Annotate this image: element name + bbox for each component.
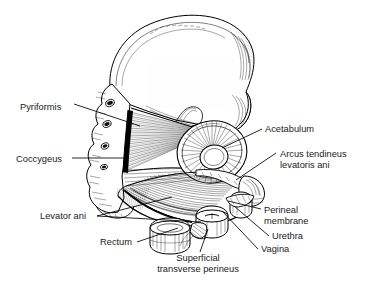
label-levator-ani: Levator ani bbox=[40, 211, 86, 221]
label-acetabulum: Acetabulum bbox=[265, 124, 314, 134]
pelvic-viscera bbox=[150, 192, 254, 254]
label-superficial-transverse-perineus-line2: transverse perineus bbox=[157, 264, 239, 274]
label-urethra: Urethra bbox=[272, 231, 304, 241]
label-coccygeus: Coccygeus bbox=[16, 154, 62, 164]
label-superficial-transverse-perineus-line1: Superficial bbox=[176, 253, 219, 263]
label-pyriformis: Pyriformis bbox=[20, 102, 62, 112]
label-vagina: Vagina bbox=[261, 244, 290, 254]
pelvic-floor-illustration: Pyriformis Coccygeus Acetabulum Arcus te… bbox=[0, 0, 366, 291]
label-perineal-membrane-line2: membrane bbox=[264, 216, 308, 226]
label-arcus-tendineus-line2: levatoris ani bbox=[280, 160, 330, 170]
label-rectum: Rectum bbox=[100, 237, 132, 247]
anatomical-figure: Pyriformis Coccygeus Acetabulum Arcus te… bbox=[0, 0, 366, 291]
label-arcus-tendineus-line1: Arcus tendineus bbox=[280, 149, 347, 159]
label-perineal-membrane-line1: Perineal bbox=[264, 205, 298, 215]
